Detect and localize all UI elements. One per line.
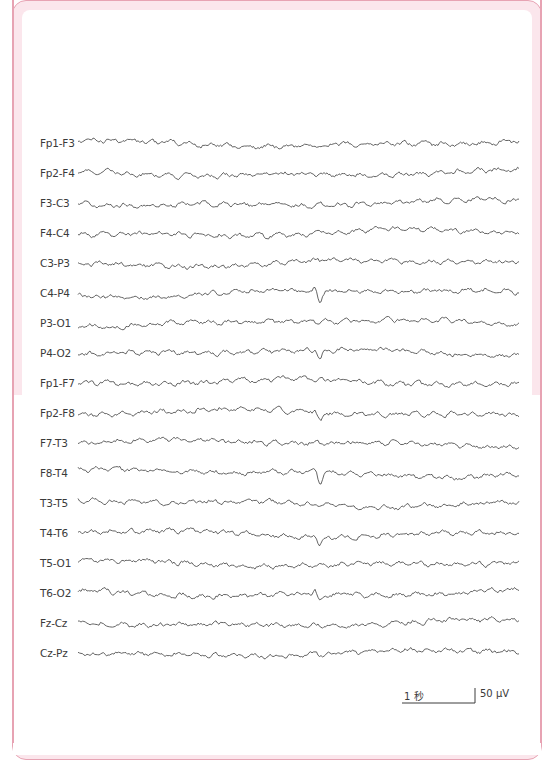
eeg-trace: [78, 466, 519, 484]
eeg-trace: [78, 376, 519, 388]
channel-label: T6-O2: [40, 587, 71, 599]
eeg-trace: [78, 437, 519, 449]
channel-label: F4-C4: [40, 227, 70, 239]
eeg-trace: [78, 347, 519, 359]
eeg-trace: [78, 406, 519, 421]
channel-label: C4-P4: [40, 287, 70, 299]
channel-label: F3-C3: [40, 197, 70, 209]
eeg-trace: [78, 648, 519, 659]
channel-label: C3-P3: [40, 257, 70, 269]
eeg-trace: [78, 587, 519, 599]
eeg-trace: [78, 317, 519, 330]
eeg-trace: [78, 288, 519, 303]
channel-label: Fz-Cz: [40, 617, 67, 629]
channel-label: Fp1-F3: [40, 137, 75, 149]
eeg-trace: [78, 617, 519, 629]
channel-label: F7-T3: [40, 437, 68, 449]
eeg-trace: [78, 227, 519, 240]
channel-label: P3-O1: [40, 317, 71, 329]
channel-label: T4-T6: [40, 527, 68, 539]
eeg-trace: [78, 138, 519, 149]
channel-label: F8-T4: [40, 467, 68, 479]
channel-label: Cz-Pz: [40, 647, 67, 659]
amplitude-scale-label: 50 μV: [480, 688, 509, 699]
channel-label: Fp2-F8: [40, 407, 75, 419]
eeg-trace: [78, 498, 519, 510]
eeg-trace: [78, 197, 519, 209]
channel-label: T3-T5: [40, 497, 68, 509]
eeg-trace: [78, 258, 519, 270]
channel-label: Fp2-F4: [40, 167, 75, 179]
time-scale-label: 1 秒: [404, 688, 424, 703]
channel-label: P4-O2: [40, 347, 71, 359]
channel-label: Fp1-F7: [40, 377, 75, 389]
eeg-trace: [78, 528, 519, 546]
eeg-trace: [78, 559, 519, 570]
channel-label: T5-O1: [40, 557, 71, 569]
eeg-trace: [78, 167, 519, 179]
